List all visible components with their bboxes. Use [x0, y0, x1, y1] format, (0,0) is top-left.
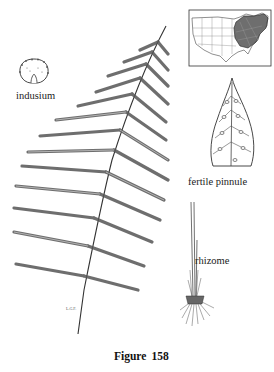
rhizome-label: rhizome: [195, 255, 229, 266]
fern-frond-illustration: [8, 20, 176, 338]
artist-initials: L.G.F.: [66, 306, 76, 311]
range-map: [188, 6, 272, 68]
figure-caption: Figure158: [114, 350, 169, 362]
fern-frond-icon: [8, 20, 176, 338]
fertile-pinnule-label: fertile pinnule: [188, 176, 247, 187]
fertile-pinnule-icon: [205, 76, 259, 172]
figure-caption-word: Figure: [114, 350, 146, 362]
figure-caption-number: 158: [151, 350, 168, 362]
us-map-icon: [188, 6, 272, 68]
fertile-pinnule-illustration: [205, 76, 259, 172]
